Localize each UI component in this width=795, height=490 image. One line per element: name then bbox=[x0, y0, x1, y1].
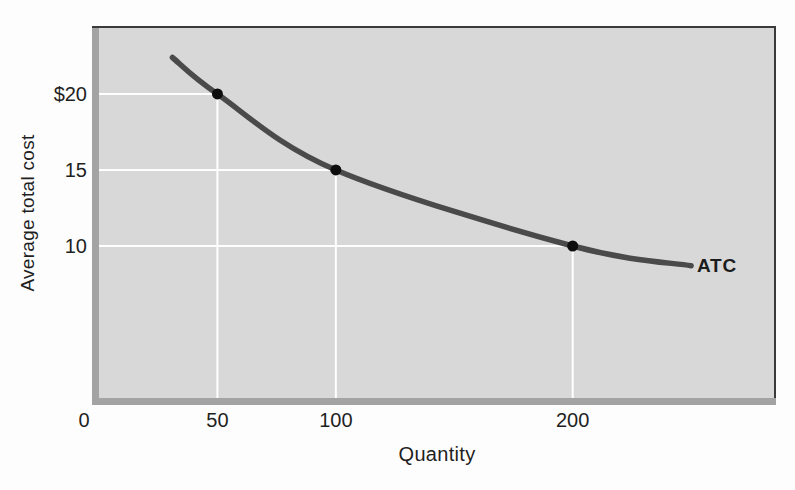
axis-frame-bottom bbox=[92, 398, 776, 405]
y-axis-label: Average total cost bbox=[16, 103, 40, 323]
data-point-marker bbox=[330, 164, 341, 175]
data-point-marker bbox=[567, 240, 578, 251]
atc-curve-label: ATC bbox=[697, 255, 737, 277]
axis-frame-left bbox=[92, 26, 99, 405]
y-tick-label: 10 bbox=[30, 235, 87, 257]
x-tick-label: 100 bbox=[306, 408, 366, 432]
atc-chart-svg bbox=[0, 0, 795, 490]
x-axis-label: Quantity bbox=[362, 442, 512, 466]
y-tick-label: $20 bbox=[30, 83, 87, 105]
atc-cost-curve-figure: Average total cost $201510 050100200 Qua… bbox=[0, 0, 795, 490]
y-tick-label: 15 bbox=[30, 159, 87, 181]
x-tick-label: 200 bbox=[543, 408, 603, 432]
x-tick-label: 0 bbox=[54, 408, 114, 432]
data-point-marker bbox=[212, 88, 223, 99]
x-tick-label: 50 bbox=[187, 408, 247, 432]
